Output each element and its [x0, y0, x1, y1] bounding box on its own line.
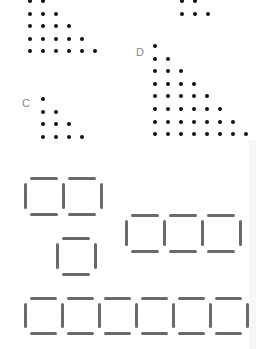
- dot: [231, 132, 235, 136]
- dot: [192, 94, 196, 98]
- dot: [28, 37, 32, 41]
- matchstick: [215, 332, 242, 335]
- matchstick: [169, 214, 197, 217]
- dot: [41, 0, 45, 3]
- matchstick: [56, 243, 59, 269]
- matchstick: [62, 237, 90, 240]
- dot: [153, 132, 157, 136]
- matchstick: [67, 332, 94, 335]
- dot: [179, 82, 183, 86]
- dot: [67, 135, 71, 139]
- dot: [41, 49, 45, 53]
- dot: [54, 37, 58, 41]
- dot: [231, 120, 235, 124]
- matchstick: [131, 250, 159, 253]
- dot: [80, 49, 84, 53]
- dot: [41, 135, 45, 139]
- matchstick: [131, 214, 159, 217]
- matchstick: [201, 220, 204, 246]
- dot: [80, 37, 84, 41]
- right-edge-shade: [249, 140, 256, 349]
- dot: [166, 69, 170, 73]
- matchstick: [24, 183, 27, 209]
- dot: [67, 37, 71, 41]
- matchstick: [62, 273, 90, 276]
- dot: [41, 24, 45, 28]
- dot: [179, 107, 183, 111]
- dot: [192, 82, 196, 86]
- dot: [54, 110, 58, 114]
- dot: [206, 12, 210, 16]
- dot: [218, 132, 222, 136]
- dot: [54, 122, 58, 126]
- dot: [67, 24, 71, 28]
- dot: [153, 120, 157, 124]
- dot: [205, 120, 209, 124]
- dot: [205, 132, 209, 136]
- matchstick: [207, 214, 235, 217]
- dot: [28, 49, 32, 53]
- dot: [67, 49, 71, 53]
- dot: [179, 132, 183, 136]
- matchstick: [141, 332, 168, 335]
- dot: [179, 94, 183, 98]
- dot: [166, 82, 170, 86]
- matchstick: [163, 220, 166, 246]
- matchstick: [207, 250, 235, 253]
- dot: [205, 107, 209, 111]
- dot: [218, 107, 222, 111]
- matchstick: [62, 183, 65, 209]
- matchstick: [169, 250, 197, 253]
- dot: [179, 69, 183, 73]
- dot: [166, 107, 170, 111]
- dot: [166, 132, 170, 136]
- dot: [67, 122, 71, 126]
- dot: [153, 44, 157, 48]
- dot: [205, 94, 209, 98]
- matchstick: [68, 177, 96, 180]
- matchstick: [30, 297, 57, 300]
- matchstick: [178, 297, 205, 300]
- dot: [54, 12, 58, 16]
- dot: [192, 120, 196, 124]
- dot: [153, 69, 157, 73]
- matchstick: [98, 303, 101, 328]
- figure-label: C: [22, 98, 30, 109]
- matchstick: [239, 220, 242, 246]
- matchstick: [104, 297, 131, 300]
- matchstick: [30, 213, 58, 216]
- dot: [80, 135, 84, 139]
- matchstick: [125, 220, 128, 246]
- matchstick: [24, 303, 27, 328]
- matchstick: [135, 303, 138, 328]
- dot: [41, 12, 45, 16]
- matchstick: [172, 303, 175, 328]
- dot: [54, 24, 58, 28]
- dot: [192, 107, 196, 111]
- dot: [41, 37, 45, 41]
- dot: [153, 94, 157, 98]
- matchstick: [30, 177, 58, 180]
- matchstick: [209, 303, 212, 328]
- dot: [179, 120, 183, 124]
- matchstick: [67, 297, 94, 300]
- dot: [166, 57, 170, 61]
- matchstick: [104, 332, 131, 335]
- dot: [193, 12, 197, 16]
- dot: [218, 120, 222, 124]
- dot: [54, 49, 58, 53]
- matchstick: [94, 243, 97, 269]
- figure-label: D: [136, 47, 144, 58]
- dot: [41, 97, 45, 101]
- matchstick: [141, 297, 168, 300]
- dot: [166, 94, 170, 98]
- matchstick: [100, 183, 103, 209]
- dot: [28, 0, 32, 3]
- matchstick: [61, 303, 64, 328]
- dot: [153, 107, 157, 111]
- dot: [192, 132, 196, 136]
- dot: [180, 0, 184, 3]
- matchstick: [246, 303, 249, 328]
- dot: [193, 0, 197, 3]
- matchstick: [178, 332, 205, 335]
